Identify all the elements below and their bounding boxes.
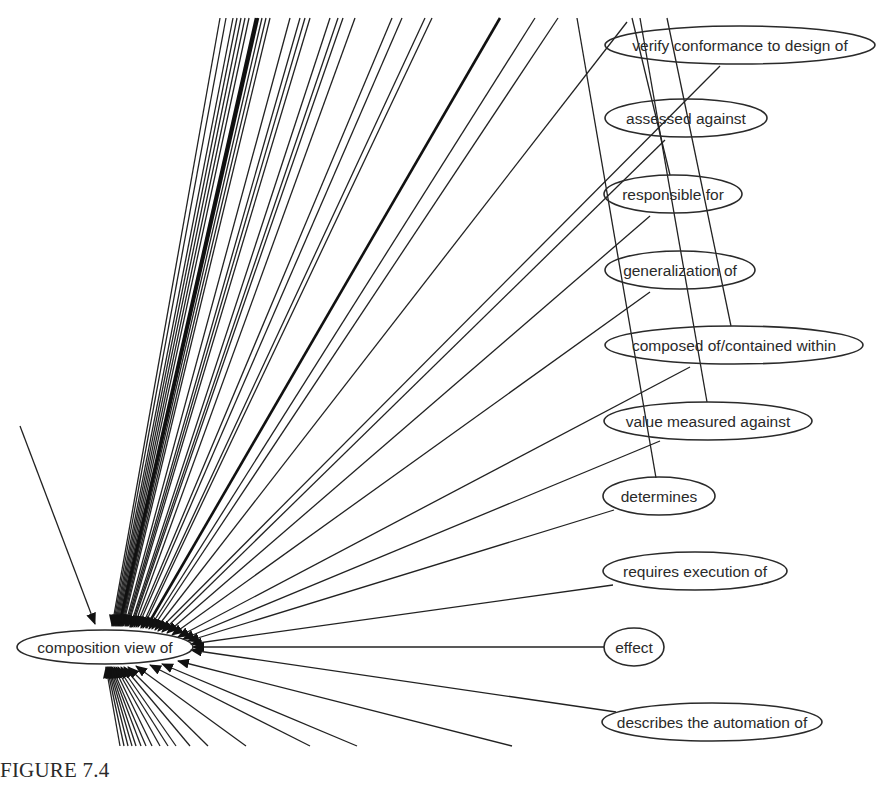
- edge-arrow: [191, 585, 613, 644]
- edge-arrow: [121, 18, 262, 626]
- edge-arrow: [188, 510, 614, 641]
- node-label: verify conformance to design of: [632, 37, 848, 54]
- edge-arrow: [20, 426, 95, 624]
- edge-arrow: [155, 22, 627, 630]
- node-value[interactable]: value measured against: [604, 402, 812, 440]
- edge-arrow: [114, 667, 152, 746]
- node-verify[interactable]: verify conformance to design of: [605, 26, 875, 64]
- edge-arrow: [112, 18, 220, 626]
- node-hub[interactable]: composition view of: [17, 630, 193, 664]
- edge-arrow: [123, 18, 270, 626]
- edge-arrow: [136, 18, 392, 627]
- node-effect[interactable]: effect: [604, 628, 664, 666]
- node-label: effect: [615, 639, 653, 656]
- node-describes[interactable]: describes the automation of: [602, 703, 822, 741]
- edge-arrow: [125, 18, 290, 626]
- edge-arrow: [117, 18, 245, 626]
- edge-arrow: [183, 441, 660, 639]
- edge-arrow: [127, 18, 305, 626]
- node-requires[interactable]: requires execution of: [603, 552, 787, 590]
- concept-graph: composition view ofverify conformance to…: [0, 0, 884, 789]
- node-label: describes the automation of: [617, 714, 808, 731]
- node-label: generalization of: [623, 262, 737, 279]
- node-label: value measured against: [626, 413, 791, 430]
- node-assessed[interactable]: assessed against: [605, 99, 767, 137]
- node-label: determines: [621, 488, 698, 505]
- node-determines[interactable]: determines: [603, 477, 715, 515]
- figure-caption: FIGURE 7.4: [0, 758, 109, 783]
- edge-arrow: [138, 18, 402, 627]
- node-label: assessed against: [626, 110, 746, 127]
- edge-arrow: [146, 18, 500, 628]
- node-label: composed of/contained within: [632, 337, 836, 354]
- node-generalization[interactable]: generalization of: [605, 251, 755, 289]
- node-label: requires execution of: [623, 563, 768, 580]
- node-composed[interactable]: composed of/contained within: [605, 326, 863, 364]
- edge-arrow: [136, 666, 246, 746]
- node-label: composition view of: [37, 639, 173, 656]
- nodes-layer: composition view ofverify conformance to…: [17, 26, 875, 741]
- node-responsible[interactable]: responsible for: [604, 175, 742, 213]
- edge-arrow: [124, 667, 190, 746]
- node-label: responsible for: [622, 186, 724, 203]
- edge-arrow: [126, 18, 300, 626]
- edge-arrow: [162, 664, 357, 746]
- edge-arrow: [130, 18, 330, 627]
- edge-arrow: [172, 292, 650, 635]
